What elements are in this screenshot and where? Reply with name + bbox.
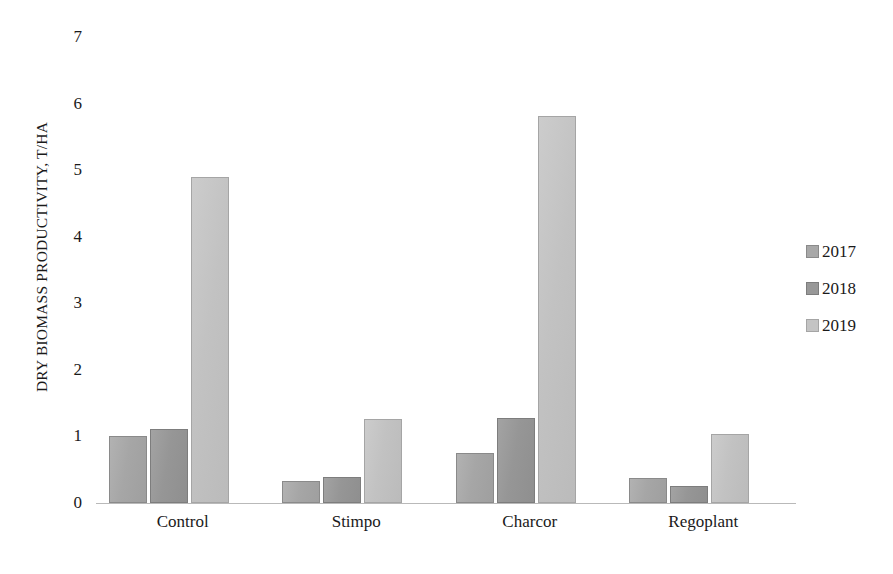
y-axis-tick-6: 6 <box>48 95 82 112</box>
bar-control-2019[interactable] <box>191 177 229 503</box>
bar-group-regoplant <box>629 37 749 503</box>
plot-area <box>96 37 790 503</box>
y-axis-tick-2: 2 <box>48 361 82 378</box>
x-axis-tick-charcor: Charcor <box>443 512 617 532</box>
y-axis-tick-4: 4 <box>48 228 82 245</box>
bar-group-stimpo <box>282 37 402 503</box>
bar-group-charcor <box>456 37 576 503</box>
bar-charcor-2018[interactable] <box>497 418 535 503</box>
bar-control-2017[interactable] <box>109 436 147 503</box>
bar-regoplant-2017[interactable] <box>629 478 667 503</box>
bar-regoplant-2019[interactable] <box>711 434 749 503</box>
bar-group-control <box>109 37 229 503</box>
bar-stimpo-2018[interactable] <box>323 477 361 503</box>
x-axis-tick-control: Control <box>96 512 270 532</box>
legend-label-2018: 2018 <box>822 280 856 297</box>
legend-label-2019: 2019 <box>822 317 856 334</box>
bar-control-2018[interactable] <box>150 429 188 503</box>
x-axis-tick-labels: ControlStimpoCharcorRegoplant <box>96 512 790 546</box>
y-axis-tick-3: 3 <box>48 294 82 311</box>
y-axis-tick-labels: 01234567 <box>48 30 82 510</box>
bar-regoplant-2018[interactable] <box>670 486 708 503</box>
legend-label-2017: 2017 <box>822 243 856 260</box>
chart-legend: 201720182019 <box>806 233 890 344</box>
x-axis-baseline <box>96 503 796 504</box>
bar-charcor-2019[interactable] <box>538 116 576 503</box>
x-axis-tick-stimpo: Stimpo <box>270 512 444 532</box>
legend-swatch-icon-2017 <box>806 245 819 258</box>
legend-swatch-icon-2019 <box>806 319 819 332</box>
legend-item-2018[interactable]: 2018 <box>806 270 890 307</box>
y-axis-tick-7: 7 <box>48 28 82 45</box>
legend-swatch-icon-2018 <box>806 282 819 295</box>
x-axis-tick-regoplant: Regoplant <box>617 512 791 532</box>
bar-stimpo-2019[interactable] <box>364 419 402 503</box>
bar-stimpo-2017[interactable] <box>282 481 320 503</box>
legend-item-2017[interactable]: 2017 <box>806 233 890 270</box>
bar-charcor-2017[interactable] <box>456 453 494 503</box>
legend-item-2019[interactable]: 2019 <box>806 307 890 344</box>
y-axis-tick-5: 5 <box>48 161 82 178</box>
bar-chart-figure: DRY BIOMASS PRODUCTIVITY, T/HA 01234567 … <box>0 0 893 574</box>
y-axis-tick-1: 1 <box>48 427 82 444</box>
y-axis-tick-0: 0 <box>48 494 82 511</box>
